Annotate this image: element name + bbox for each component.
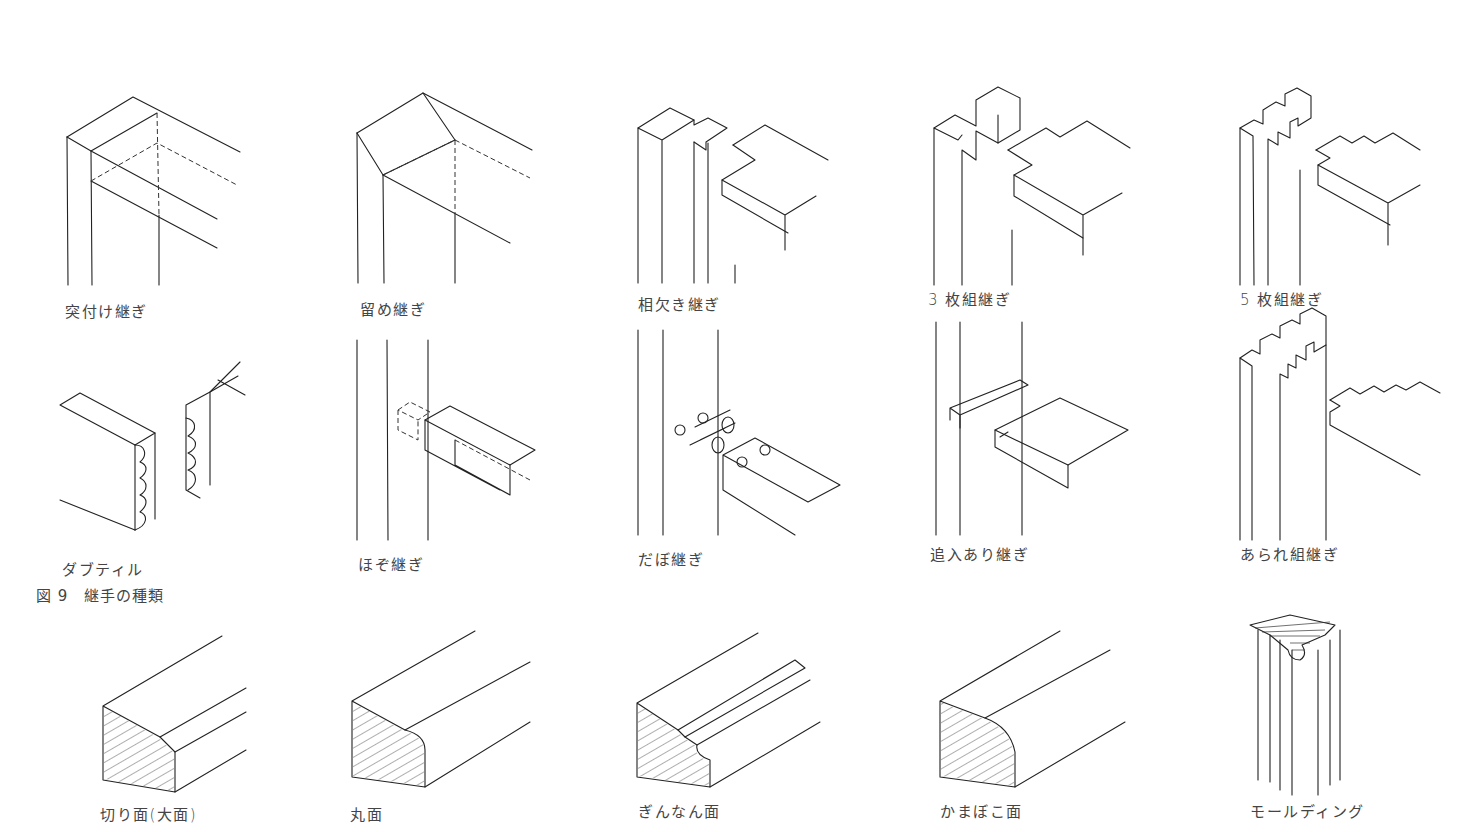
chamfer-molding-drawing xyxy=(103,636,246,792)
label-ginnan-molding: ぎんなん面 xyxy=(638,800,721,821)
kamaboko-molding-drawing xyxy=(940,631,1125,787)
label-molding-column: モールディング xyxy=(1250,800,1365,821)
label-finger-joint: あられ組継ぎ xyxy=(1240,543,1339,564)
mortise-tenon-joint-drawing xyxy=(357,340,535,540)
label-miter-joint: 留め継ぎ xyxy=(360,298,426,319)
housed-dovetail-joint-drawing xyxy=(936,322,1128,535)
label-mortise-tenon: ほぞ継ぎ xyxy=(358,553,424,574)
round-molding-drawing xyxy=(352,631,530,787)
dovetail-joint-drawing xyxy=(60,362,245,530)
label-half-lap-joint: 相欠き継ぎ xyxy=(638,293,721,314)
figure-caption: 図 9 継手の種類 xyxy=(36,584,164,605)
label-dovetail: ダブティル xyxy=(62,558,144,579)
label-dowel-joint: だぼ継ぎ xyxy=(638,548,704,569)
molding-column-drawing xyxy=(1250,615,1340,795)
three-piece-joint-drawing xyxy=(934,87,1130,285)
joint-types-illustration xyxy=(0,0,1471,832)
miter-joint-drawing xyxy=(357,93,532,283)
label-round-molding: 丸面 xyxy=(350,803,383,824)
dowel-joint-drawing xyxy=(638,330,840,535)
five-piece-joint-drawing xyxy=(1240,88,1420,285)
butt-joint-drawing xyxy=(67,97,240,285)
label-housed-dovetail: 追入あり継ぎ xyxy=(930,543,1029,564)
label-chamfer-molding: 切り面(大面) xyxy=(100,803,197,824)
label-butt-joint: 突付け継ぎ xyxy=(65,300,148,321)
half-lap-joint-drawing xyxy=(638,108,828,283)
label-three-piece-joint: 3 枚組継ぎ xyxy=(928,288,1011,309)
label-kamaboko-molding: かまぼこ面 xyxy=(940,800,1023,821)
label-five-piece-joint: 5 枚組継ぎ xyxy=(1240,288,1323,309)
finger-joint-drawing xyxy=(1240,308,1440,540)
ginnan-molding-drawing xyxy=(637,633,820,787)
